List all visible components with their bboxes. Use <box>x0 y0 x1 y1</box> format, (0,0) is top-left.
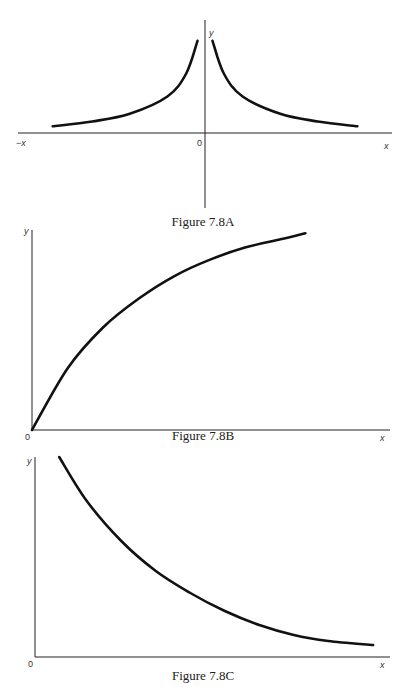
y-axis-label: y <box>26 456 32 466</box>
origin-label: 0 <box>25 432 30 442</box>
curve-right-branch <box>213 41 358 127</box>
origin-label: 0 <box>28 659 33 669</box>
figure-7-8c: y x 0 Figure 7.8C <box>26 456 390 683</box>
curve <box>59 457 373 645</box>
figure-7-8b: y x 0 Figure 7.8B <box>23 226 390 443</box>
y-axis-label: y <box>208 28 214 38</box>
figure-7-8a: −x x y 0 Figure 7.8A <box>16 20 392 229</box>
figure-canvas: −x x y 0 Figure 7.8A y x 0 Figure 7.8B y… <box>0 0 406 687</box>
origin-label: 0 <box>197 138 202 148</box>
curve <box>32 233 305 430</box>
x-axis-label: x <box>379 660 385 670</box>
x-axis-label: x <box>383 141 389 151</box>
figure-caption: Figure 7.8C <box>172 668 234 683</box>
curve-left-branch <box>53 41 198 127</box>
x-axis-label: x <box>379 433 385 443</box>
figure-caption: Figure 7.8B <box>172 428 234 443</box>
negative-x-axis-label: −x <box>16 138 26 148</box>
figure-caption: Figure 7.8A <box>172 214 235 229</box>
y-axis-label: y <box>23 226 29 236</box>
